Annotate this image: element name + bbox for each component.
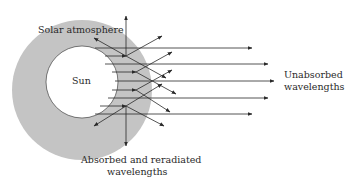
absorbed-label-line2: wavelengths <box>107 166 168 177</box>
unabsorbed-label-line2: wavelengths <box>284 81 345 92</box>
sun-label: Sun <box>72 75 91 86</box>
absorbed-label-line1: Absorbed and reradiated <box>80 154 201 165</box>
solar-atmosphere-label: Solar atmosphere <box>38 24 124 35</box>
solar-absorption-diagram: Solar atmosphere Sun Unabsorbed waveleng… <box>0 0 356 190</box>
unabsorbed-label-line1: Unabsorbed <box>284 69 343 80</box>
